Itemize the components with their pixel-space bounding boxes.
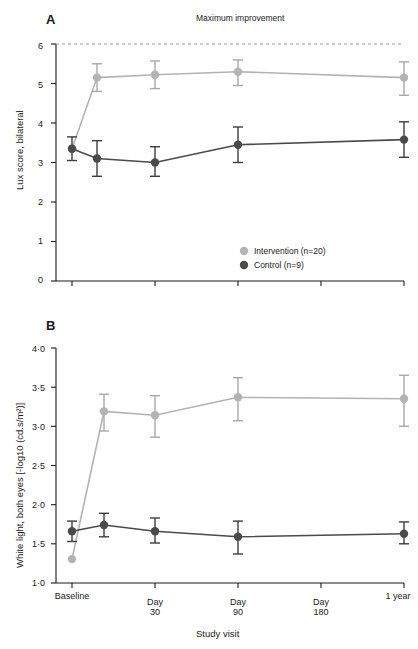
panel-b-xtick-day90: Day 90 bbox=[208, 597, 268, 618]
panel-b-x-ticks bbox=[72, 583, 404, 588]
panel-b-x-axis-title: Study visit bbox=[196, 628, 239, 639]
panel-b-xtick-day180: Day 180 bbox=[291, 597, 351, 618]
panel-b-plot bbox=[0, 0, 418, 649]
panel-b-xtick-baseline: Baseline bbox=[42, 591, 102, 601]
panel-b-xtick-day30: Day 30 bbox=[125, 597, 185, 618]
panel-b-xtick-1year: 1 year bbox=[368, 591, 418, 601]
panel-b-intervention-errorbars bbox=[99, 375, 409, 437]
panel-b-y-ticks bbox=[51, 348, 56, 583]
